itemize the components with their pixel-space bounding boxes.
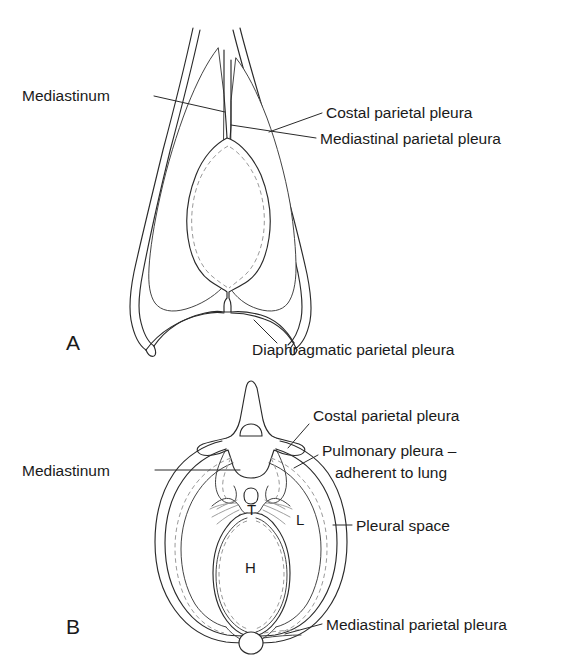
diaphragm-upper-line xyxy=(154,311,224,346)
marker-trachea: T xyxy=(247,501,256,518)
diaphragm-lower-line xyxy=(146,312,224,350)
pleura-diagram-svg: Mediastinum Costal parietal pleura Media… xyxy=(0,0,579,672)
sternum xyxy=(239,632,263,654)
anatomy-figure: Mediastinum Costal parietal pleura Media… xyxy=(0,0,579,672)
marker-heart: H xyxy=(245,559,256,576)
panel-letter-a: A xyxy=(66,331,80,354)
leader-costal-a xyxy=(269,113,322,132)
label-costal-parietal-pleura-b: Costal parietal pleura xyxy=(313,407,460,424)
label-mediastinal-parietal-pleura-b: Mediastinal parietal pleura xyxy=(326,616,507,633)
marker-lung: L xyxy=(296,511,304,528)
mediastinum-right-border xyxy=(230,60,231,140)
panel-letter-b: B xyxy=(66,615,80,638)
panel-b-group: Mediastinum Costal parietal pleura Pulmo… xyxy=(22,381,507,654)
label-pulmonary-pleura-line1: Pulmonary pleura – xyxy=(322,442,457,459)
panel-a-group: Mediastinum Costal parietal pleura Media… xyxy=(22,28,501,358)
label-costal-parietal-pleura-a: Costal parietal pleura xyxy=(326,104,473,121)
mediastinum-left-border xyxy=(224,50,227,138)
label-mediastinum-a: Mediastinum xyxy=(22,87,110,104)
label-pulmonary-pleura-line2: adherent to lung xyxy=(335,464,447,481)
label-diaphragmatic-parietal-pleura-a: Diaphragmatic parietal pleura xyxy=(252,341,455,358)
diaphragm-upper-line-right xyxy=(231,312,294,343)
label-mediastinum-b: Mediastinum xyxy=(22,462,110,479)
label-mediastinal-parietal-pleura-a: Mediastinal parietal pleura xyxy=(320,130,501,147)
label-pleural-space-b: Pleural space xyxy=(356,517,450,534)
